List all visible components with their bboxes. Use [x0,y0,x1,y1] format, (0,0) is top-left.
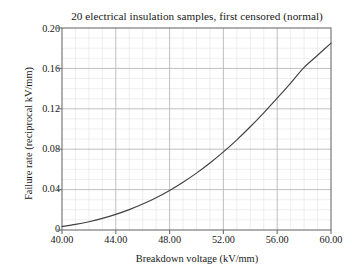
plot-area [0,0,352,274]
chart-figure: 20 electrical insulation samples, first … [0,0,352,274]
axis-ticks [57,28,331,234]
minor-gridlines [62,28,331,230]
